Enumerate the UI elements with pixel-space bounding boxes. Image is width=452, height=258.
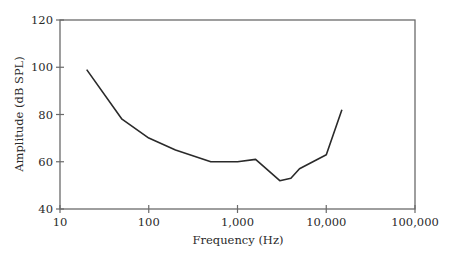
y-tick-label: 80 — [38, 108, 53, 122]
x-tick-label: 1,000 — [221, 215, 254, 229]
y-axis-title: Amplitude (dB SPL) — [12, 56, 26, 172]
y-tick-label: 120 — [31, 13, 53, 27]
x-tick-label: 10,000 — [306, 215, 346, 229]
x-tick-label: 10 — [53, 215, 68, 229]
y-tick-label: 60 — [38, 155, 53, 169]
y-axis-tick-labels: 406080100120 — [31, 13, 53, 216]
y-tick-label: 40 — [38, 202, 53, 216]
chart: 406080100120 101001,00010,000100,000 Fre… — [0, 0, 452, 258]
x-tick-label: 100 — [138, 215, 160, 229]
x-axis-tick-labels: 101001,00010,000100,000 — [53, 215, 439, 229]
data-line — [87, 70, 342, 181]
x-axis-title: Frequency (Hz) — [193, 233, 284, 247]
y-tick-label: 100 — [31, 60, 53, 74]
plot-frame — [60, 20, 415, 209]
x-tick-label: 100,000 — [391, 215, 439, 229]
